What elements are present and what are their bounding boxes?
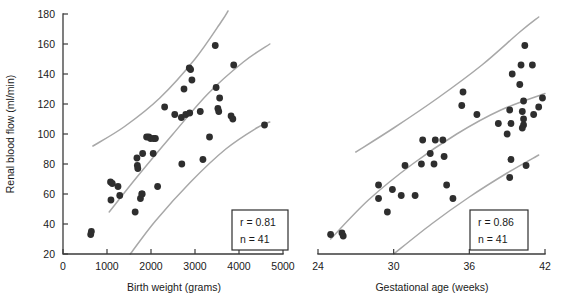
data-point xyxy=(427,150,434,157)
data-point xyxy=(521,42,528,49)
data-point xyxy=(375,195,382,202)
data-point xyxy=(506,107,513,114)
upper-reference-curve xyxy=(93,11,228,146)
data-point xyxy=(519,125,526,132)
data-point xyxy=(539,95,546,102)
x-tick-label: 4000 xyxy=(227,260,251,272)
data-point xyxy=(206,134,213,141)
data-point xyxy=(458,102,465,109)
data-point xyxy=(88,228,95,235)
data-point xyxy=(132,209,139,216)
data-point xyxy=(200,156,207,163)
data-point xyxy=(432,137,439,144)
data-point xyxy=(215,108,222,115)
y-tick-label: 140 xyxy=(37,68,55,80)
x-tick-label: 36 xyxy=(463,260,475,272)
data-point xyxy=(535,104,542,111)
data-point xyxy=(495,120,502,127)
y-tick-label: 40 xyxy=(43,218,55,230)
data-point xyxy=(508,120,515,127)
data-point xyxy=(441,153,448,160)
data-point xyxy=(509,71,516,78)
x-tick-label: 0 xyxy=(60,260,66,272)
y-tick-label: 120 xyxy=(37,98,55,110)
y-tick-label: 180 xyxy=(37,8,55,20)
data-point xyxy=(506,174,513,181)
data-point xyxy=(216,95,223,102)
data-point xyxy=(419,137,426,144)
data-point xyxy=(187,66,194,73)
data-point xyxy=(108,197,115,204)
data-point xyxy=(171,111,178,118)
data-point xyxy=(431,161,438,168)
data-point xyxy=(229,116,236,123)
data-point xyxy=(161,104,168,111)
data-point xyxy=(375,182,382,189)
data-point xyxy=(139,150,146,157)
data-point xyxy=(189,77,196,84)
y-tick-label: 60 xyxy=(43,188,55,200)
x-tick-label: 5000 xyxy=(271,260,295,272)
x-tick-label: 3000 xyxy=(183,260,207,272)
x-tick-label: 24 xyxy=(312,260,324,272)
data-point xyxy=(181,86,188,93)
data-point xyxy=(186,110,193,117)
data-point xyxy=(516,81,523,88)
data-point xyxy=(520,98,527,105)
upper-reference-curve xyxy=(356,17,539,152)
left-panel-x-tick-labels: 010002000300040005000 xyxy=(60,260,295,272)
left-panel-x-axis-title: Birth weight (grams) xyxy=(127,281,221,293)
right-panel-x-axis-title: Gestational age (weeks) xyxy=(375,281,488,293)
data-point xyxy=(439,137,446,144)
data-point xyxy=(450,195,457,202)
data-point xyxy=(139,191,146,198)
data-point xyxy=(398,192,405,199)
data-point xyxy=(504,131,511,138)
data-point xyxy=(261,122,268,129)
data-point xyxy=(150,150,157,157)
data-point xyxy=(529,62,536,69)
data-point xyxy=(530,111,537,118)
y-tick-label: 20 xyxy=(43,248,55,260)
data-point xyxy=(518,62,525,69)
x-tick-label: 1000 xyxy=(95,260,119,272)
y-tick-label: 160 xyxy=(37,38,55,50)
data-point xyxy=(154,183,161,190)
data-point xyxy=(178,161,185,168)
data-point xyxy=(212,42,219,49)
data-point xyxy=(230,62,237,69)
left-panel-sample-size-label: n = 41 xyxy=(240,233,270,245)
x-tick-label: 30 xyxy=(388,260,400,272)
data-point xyxy=(443,182,450,189)
y-tick-label: 100 xyxy=(37,128,55,140)
right-panel-correlation-label: r = 0.86 xyxy=(478,216,514,228)
data-point xyxy=(213,84,220,91)
right-panel: 24303642 Gestational age (weeks) r = 0.8… xyxy=(312,17,551,293)
y-tick-label: 80 xyxy=(43,158,55,170)
data-point xyxy=(384,209,391,216)
left-panel: 20406080100120140160180 0100020003000400… xyxy=(4,8,295,293)
data-point xyxy=(474,111,481,118)
data-point xyxy=(116,192,123,199)
data-point xyxy=(134,155,141,162)
data-point xyxy=(412,192,419,199)
data-point xyxy=(134,165,141,172)
data-point xyxy=(327,231,334,238)
data-point xyxy=(340,233,347,240)
figure-canvas: 20406080100120140160180 0100020003000400… xyxy=(0,0,561,306)
data-point xyxy=(418,161,425,168)
left-panel-y-tick-labels: 20406080100120140160180 xyxy=(37,8,55,260)
data-point xyxy=(152,135,159,142)
left-panel-y-ticks xyxy=(63,14,68,254)
y-axis-title: Renal blood flow (ml/min) xyxy=(4,75,16,193)
data-point xyxy=(519,108,526,115)
x-tick-label: 2000 xyxy=(139,260,163,272)
right-panel-x-tick-labels: 24303642 xyxy=(312,260,551,272)
right-panel-sample-size-label: n = 41 xyxy=(478,233,508,245)
data-point xyxy=(402,162,409,169)
left-panel-points xyxy=(87,42,268,238)
data-point xyxy=(115,183,122,190)
x-tick-label: 42 xyxy=(539,260,551,272)
data-point xyxy=(460,89,467,96)
data-point xyxy=(389,186,396,193)
